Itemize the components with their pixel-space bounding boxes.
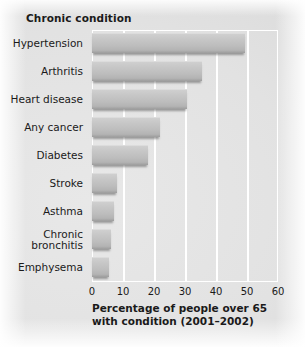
bar-row [92,254,278,282]
bars-layer [92,30,278,282]
category-label: Hypertension [0,30,88,58]
category-axis-header: Chronic condition [26,12,132,24]
bar-row [92,30,278,58]
bar [92,117,160,137]
category-label: Any cancer [0,114,88,142]
category-label: Arthritis [0,58,88,86]
bar-row [92,170,278,198]
category-label: Stroke [0,170,88,198]
category-label: Emphysema [0,254,88,282]
x-tick-label: 60 [272,286,285,297]
category-label: Diabetes [0,142,88,170]
x-tick-label: 50 [241,286,254,297]
bar-row [92,142,278,170]
bar-row [92,198,278,226]
x-tick-label: 0 [89,286,95,297]
bar-row [92,226,278,254]
category-labels: HypertensionArthritisHeart diseaseAny ca… [0,30,88,282]
bar [92,173,117,193]
x-tick-label: 40 [210,286,223,297]
bar [92,61,202,81]
bar [92,89,187,109]
x-tick-label: 10 [117,286,130,297]
category-label: Chronicbronchitis [0,226,88,254]
bar [92,201,114,221]
bar-row [92,86,278,114]
bar [92,145,148,165]
x-axis-title-line-2: with condition (2001–2002) [92,315,292,328]
category-label: Heart disease [0,86,88,114]
bar [92,33,245,53]
bar-row [92,114,278,142]
x-tick-label: 30 [179,286,192,297]
bar-chart: Chronic condition HypertensionArthritisH… [0,0,305,347]
x-tick-label: 20 [148,286,161,297]
bar [92,229,111,249]
category-label: Asthma [0,198,88,226]
bar-row [92,58,278,86]
bar [92,257,109,277]
x-axis-title: Percentage of people over 65 with condit… [92,302,292,328]
x-axis-tick-labels: 0102030405060 [0,286,305,300]
x-axis-title-line-1: Percentage of people over 65 [92,302,292,315]
